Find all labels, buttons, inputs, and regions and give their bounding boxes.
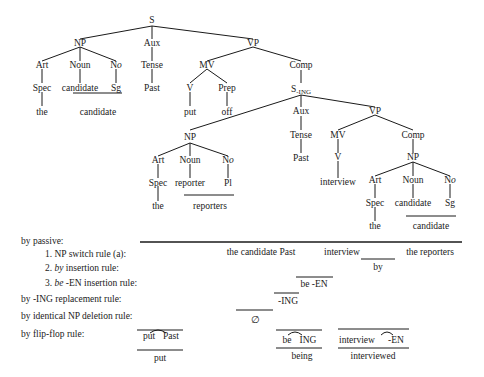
leaf-the: the: [152, 201, 164, 211]
node-v: V: [187, 83, 194, 93]
node-v: V: [335, 152, 342, 162]
node-s: S: [149, 15, 154, 25]
merged-candidate: candidate: [413, 221, 449, 231]
leaf-past: Past: [144, 83, 160, 93]
node-noun: Noun: [69, 60, 90, 70]
leaf-interview: interview: [320, 177, 356, 187]
flip-interview: interview: [339, 335, 375, 345]
node-number: No: [222, 155, 234, 165]
flip-put: put: [143, 331, 156, 341]
node-art: Art: [36, 60, 49, 70]
flip-result-interviewed: interviewed: [351, 351, 396, 361]
node-np-object: NP: [407, 152, 419, 162]
node-spec: Spec: [149, 178, 167, 188]
node-noun: Noun: [402, 175, 423, 185]
node-noun: Noun: [179, 155, 200, 165]
ing-replacement: -ING: [278, 296, 298, 306]
label-by-passive: by passive:: [21, 236, 63, 246]
switch-subject: the candidate Past: [227, 247, 296, 257]
rule-labels: by passive: 1. NP switch rule (a): 2. by…: [21, 236, 137, 339]
flip-ing: ING: [300, 335, 317, 345]
node-np-subject: NP: [74, 38, 86, 48]
node-tense: Tense: [290, 130, 312, 140]
node-spec: Spec: [366, 198, 384, 208]
node-prep: Prep: [218, 83, 236, 93]
leaf-the: the: [36, 107, 48, 117]
deletion-null: ∅: [251, 315, 260, 325]
label-flip-flop: by flip-flop rule:: [21, 329, 84, 339]
node-number: No: [444, 175, 456, 185]
tree-nodes: S NP Art Noun No Spec candidate Sg the c…: [33, 15, 456, 231]
merged-reporters: reporters: [193, 201, 227, 211]
node-mv: MV: [199, 60, 214, 70]
be-en-inserted: be -EN: [300, 279, 327, 289]
leaf-sg: Sg: [111, 83, 121, 93]
node-aux: Aux: [144, 38, 161, 48]
node-comp: Comp: [401, 130, 424, 140]
leaf-candidate: candidate: [395, 198, 431, 208]
flip-en: -EN: [388, 335, 404, 345]
node-art: Art: [369, 175, 382, 185]
leaf-the: the: [369, 221, 381, 231]
switch-verb: interview: [324, 247, 360, 257]
node-tense: Tense: [141, 60, 163, 70]
leaf-past: Past: [293, 153, 309, 163]
flip-result-put: put: [154, 353, 167, 363]
leaf-off: off: [222, 107, 234, 117]
leaf-reporter: reporter: [175, 178, 206, 188]
switch-agent: the reporters: [406, 247, 454, 257]
leaf-put: put: [184, 107, 197, 117]
derivation: the candidate Past interview the reporte…: [137, 242, 462, 363]
node-vp: VP: [369, 106, 381, 116]
node-aux: Aux: [293, 106, 310, 116]
label-np-switch: 1. NP switch rule (a):: [45, 249, 126, 260]
node-art: Art: [152, 155, 165, 165]
node-number: No: [110, 60, 122, 70]
label-by-insertion: 2. by insertion rule:: [45, 263, 119, 273]
leaf-candidate: candidate: [62, 83, 98, 93]
node-np-embedded: NP: [184, 132, 196, 142]
flip-result-being: being: [291, 351, 312, 361]
tree-edges: [42, 26, 456, 221]
label-identical-np-deletion: by identical NP deletion rule:: [21, 311, 133, 321]
leaf-pl: Pl: [224, 178, 232, 188]
leaf-sg: Sg: [445, 198, 455, 208]
label-be-en-insertion: 3. be -EN insertion rule:: [45, 278, 137, 288]
node-s-ing: S-ING: [291, 84, 311, 96]
by-inserted: by: [373, 262, 383, 272]
node-mv: MV: [330, 130, 345, 140]
merged-candidate: candidate: [80, 107, 116, 117]
node-vp: VP: [247, 38, 259, 48]
node-comp: Comp: [289, 60, 312, 70]
node-spec: Spec: [33, 83, 51, 93]
flip-be: be: [283, 335, 292, 345]
label-ing-replacement: by -ING replacement rule:: [21, 294, 122, 304]
syntax-tree-diagram: S NP Art Noun No Spec candidate Sg the c…: [0, 0, 484, 377]
